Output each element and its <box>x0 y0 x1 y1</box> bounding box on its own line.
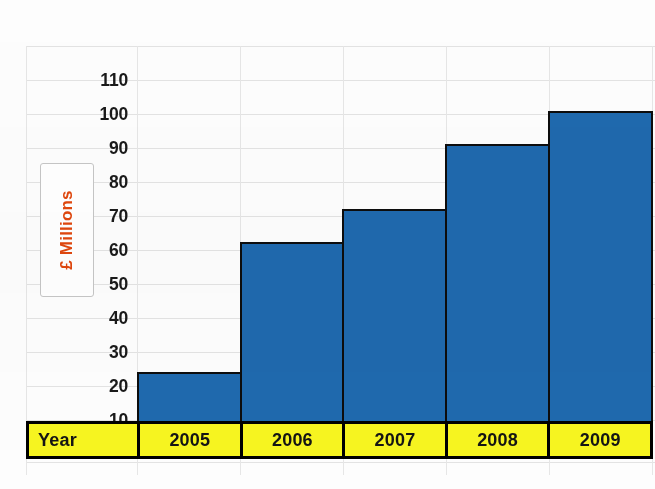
y-tick-20: 20 <box>109 378 128 396</box>
year-cell-2005[interactable]: 2005 <box>140 424 243 456</box>
bar-series <box>137 46 653 421</box>
bar-2008[interactable] <box>445 144 550 421</box>
y-axis-title-box: £ Millions <box>40 163 94 297</box>
y-tick-30: 30 <box>109 344 128 362</box>
plot-area <box>137 46 653 421</box>
chart-page: 110 100 90 80 70 60 50 40 30 20 10 £ Mil… <box>0 0 655 489</box>
year-cell-2008[interactable]: 2008 <box>448 424 551 456</box>
year-axis-table: Year 2005 2006 2007 2008 2009 <box>26 421 653 459</box>
gridline-v <box>26 46 27 475</box>
year-cell-2006[interactable]: 2006 <box>243 424 346 456</box>
y-tick-60: 60 <box>109 242 128 260</box>
gridline-h <box>26 462 655 463</box>
year-header-cell: Year <box>29 424 140 456</box>
y-tick-70: 70 <box>109 208 128 226</box>
y-tick-40: 40 <box>109 310 128 328</box>
year-cell-2009[interactable]: 2009 <box>550 424 650 456</box>
bar-2009[interactable] <box>548 111 653 421</box>
y-tick-100: 100 <box>99 106 128 124</box>
y-tick-90: 90 <box>109 140 128 158</box>
bar-2007[interactable] <box>342 209 447 421</box>
y-tick-50: 50 <box>109 276 128 294</box>
year-cell-2007[interactable]: 2007 <box>345 424 448 456</box>
y-tick-80: 80 <box>109 174 128 192</box>
y-tick-110: 110 <box>100 72 128 90</box>
y-axis-title: £ Millions <box>57 190 77 269</box>
bar-2005[interactable] <box>137 372 242 421</box>
bar-2006[interactable] <box>240 242 345 421</box>
